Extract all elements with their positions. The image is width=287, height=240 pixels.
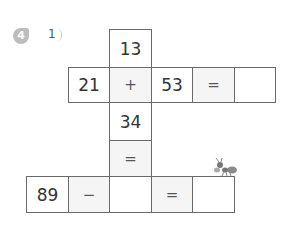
cell-bottom-left: 89: [26, 176, 69, 213]
sub-problem-label: 1: [48, 27, 62, 41]
answer-box-horizontal[interactable]: [234, 67, 276, 103]
cell-vertical-bottom: 34: [109, 102, 152, 141]
cell-horizontal-equals: =: [192, 67, 235, 103]
answer-box-vertical-result[interactable]: [109, 176, 152, 213]
cell-minus-operator: −: [68, 176, 110, 213]
cell-horizontal-left: 21: [68, 67, 110, 103]
cell-horizontal-right: 53: [151, 67, 193, 103]
cell-plus-operator: +: [109, 67, 152, 103]
cell-vertical-equals: =: [109, 140, 152, 177]
problem-number-badge: 4: [13, 28, 29, 44]
paren-mark: [57, 29, 62, 41]
cell-vertical-top: 13: [109, 29, 152, 68]
cell-bottom-equals: =: [151, 176, 193, 213]
answer-box-bottom[interactable]: [192, 176, 235, 213]
ant-icon: [212, 158, 240, 178]
sub-problem-number: 1: [48, 27, 56, 41]
